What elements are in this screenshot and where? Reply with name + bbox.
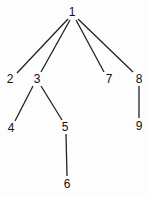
tree-diagram: 123784596	[0, 0, 148, 197]
node-3: 3	[34, 73, 41, 85]
tree-edges	[0, 0, 148, 197]
edge-1-7	[76, 20, 104, 72]
node-7: 7	[106, 73, 113, 85]
edge-1-8	[78, 19, 133, 72]
edge-3-5	[41, 86, 62, 120]
node-9: 9	[136, 120, 143, 132]
edge-1-3	[41, 20, 70, 72]
node-8: 8	[136, 73, 143, 85]
node-5: 5	[62, 121, 69, 133]
node-1: 1	[69, 6, 76, 18]
node-6: 6	[64, 178, 71, 190]
node-4: 4	[8, 122, 15, 134]
node-2: 2	[7, 73, 14, 85]
edge-1-2	[17, 19, 68, 73]
edge-5-6	[66, 134, 67, 176]
edge-3-4	[15, 86, 33, 121]
